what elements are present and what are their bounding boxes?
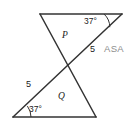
region-label-p: P — [62, 31, 68, 41]
geometry-diagram-svg — [0, 0, 134, 126]
side-length-label-upper: 5 — [90, 45, 95, 54]
upper-triangle — [40, 14, 122, 117]
angle-arc-top-right — [104, 14, 110, 27]
angle-label-top-right: 37° — [84, 17, 97, 26]
angle-label-bottom-left: 37° — [29, 105, 42, 114]
congruence-method-label: ASA — [104, 44, 124, 54]
side-length-label-lower: 5 — [26, 80, 31, 89]
geometry-figure: 37° 37° 5 5 P Q ASA — [0, 0, 134, 126]
region-label-q: Q — [58, 92, 65, 102]
